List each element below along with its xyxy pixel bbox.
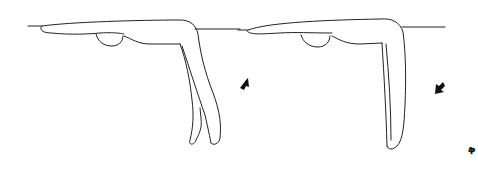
arrow-down-left-icon bbox=[435, 82, 445, 94]
torso-underline-left bbox=[124, 36, 180, 44]
right-panel bbox=[238, 19, 445, 149]
torso-underline-right bbox=[332, 36, 382, 44]
table-edge-left bbox=[28, 26, 240, 29]
leg-line-right-a bbox=[382, 43, 387, 146]
chest-left bbox=[96, 34, 123, 46]
arrow-up-right-icon bbox=[240, 78, 249, 90]
chest-right bbox=[301, 35, 330, 47]
illustration bbox=[0, 0, 478, 174]
corner-mark: ቅ bbox=[468, 144, 475, 157]
figure: ቅ bbox=[0, 0, 478, 174]
body-outline-right bbox=[248, 19, 406, 149]
left-panel bbox=[28, 20, 240, 144]
arm-lower-left bbox=[41, 27, 124, 34]
arm-lower-right bbox=[247, 31, 332, 34]
table-edge-right bbox=[238, 27, 445, 30]
leg-front-left bbox=[182, 46, 211, 143]
